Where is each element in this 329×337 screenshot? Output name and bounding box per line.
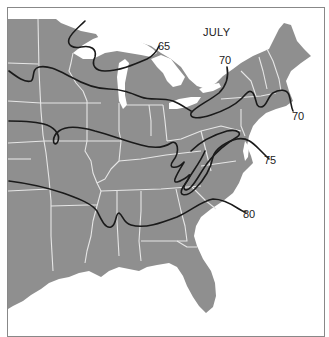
isotherm-label-70-east: 70 [292,110,304,122]
isotherm-map: JULY 65 70 70 75 80 [8,8,325,333]
map-frame: JULY 65 70 70 75 80 [7,7,325,337]
map-title: JULY [203,26,231,38]
isotherm-label-75: 75 [264,154,276,166]
isotherm-label-80: 80 [243,208,255,220]
isotherm-label-65: 65 [158,40,170,52]
isotherm-label-70-north: 70 [219,54,231,66]
